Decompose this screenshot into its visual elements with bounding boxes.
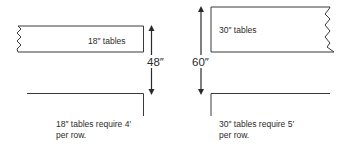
- right-caption-line2: per row.: [219, 130, 294, 141]
- left-next-row-edge: [27, 94, 144, 117]
- left-caption-line1: 18″ tables require 4′: [56, 119, 131, 130]
- right-next-row-edge: [211, 94, 330, 117]
- right-table-label: 30″ tables: [219, 26, 257, 35]
- table-spacing-diagram: [0, 0, 351, 146]
- left-caption-line2: per row.: [56, 130, 131, 141]
- right-caption: 30″ tables require 5′ per row.: [219, 119, 294, 141]
- right-caption-line1: 30″ tables require 5′: [219, 119, 294, 130]
- left-table-label: 18″ tables: [88, 37, 126, 46]
- left-caption: 18″ tables require 4′ per row.: [56, 119, 131, 141]
- left-dimension-label: 48″: [147, 57, 164, 69]
- right-break-line: [325, 7, 334, 52]
- right-dimension-label: 60″: [192, 57, 209, 69]
- left-break-line: [17, 26, 21, 52]
